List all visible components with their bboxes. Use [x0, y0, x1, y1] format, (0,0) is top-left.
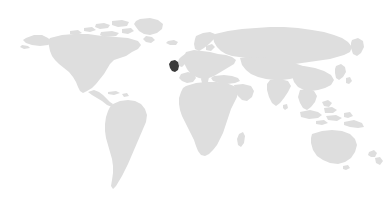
world-map-svg — [0, 0, 391, 212]
world-map-figure — [0, 0, 391, 212]
